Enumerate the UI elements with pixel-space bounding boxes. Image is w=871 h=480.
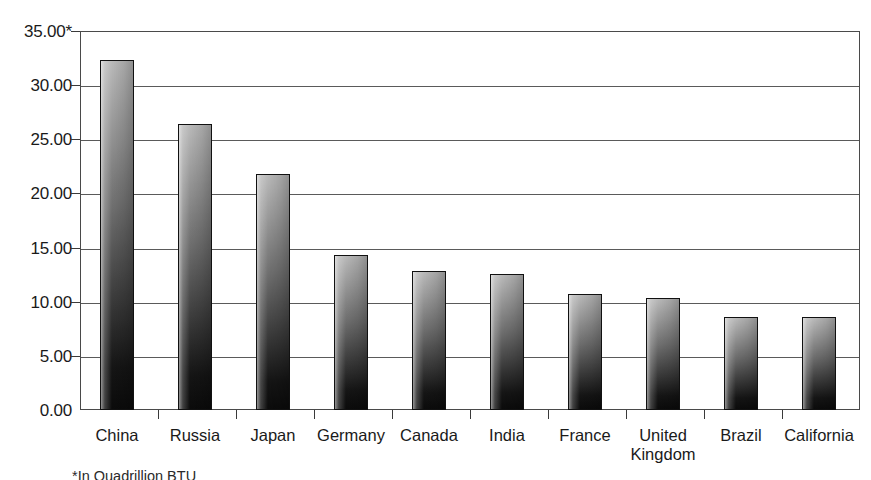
bar-fill bbox=[335, 256, 367, 409]
x-tick-label: California bbox=[784, 426, 854, 445]
x-tick-mark bbox=[314, 410, 315, 419]
y-tick-label: 25.00 bbox=[30, 131, 72, 148]
x-tick-mark bbox=[782, 410, 783, 419]
y-tick-label: 0.00 bbox=[40, 402, 72, 419]
gridline bbox=[81, 86, 859, 87]
x-tick-label: Germany bbox=[317, 426, 385, 445]
y-tick-mark bbox=[71, 356, 80, 357]
y-tick-mark bbox=[71, 31, 80, 32]
x-tick-mark bbox=[158, 410, 159, 419]
chart-footnote: *In Quadrillion BTU bbox=[72, 468, 196, 480]
x-tick-mark bbox=[548, 410, 549, 419]
y-tick-label: 30.00 bbox=[30, 77, 72, 94]
x-tick-label: Brazil bbox=[720, 426, 761, 445]
y-tick-label: 20.00 bbox=[30, 185, 72, 202]
y-tick-mark bbox=[71, 139, 80, 140]
bar-fill bbox=[413, 272, 445, 409]
bar-fill bbox=[179, 125, 211, 409]
bar[interactable] bbox=[724, 317, 758, 410]
bar[interactable] bbox=[334, 255, 368, 410]
y-tick-label: 5.00 bbox=[40, 347, 72, 364]
bar-fill bbox=[647, 299, 679, 409]
y-axis-labels: 0.005.0010.0015.0020.0025.0030.0035.00* bbox=[0, 0, 80, 480]
y-tick-mark bbox=[71, 302, 80, 303]
x-tick-label: China bbox=[95, 426, 138, 445]
x-tick-mark bbox=[470, 410, 471, 419]
y-tick-mark bbox=[71, 193, 80, 194]
y-tick-mark bbox=[71, 85, 80, 86]
bar-fill bbox=[257, 175, 289, 409]
bar[interactable] bbox=[490, 274, 524, 410]
x-tick-label: Japan bbox=[251, 426, 296, 445]
y-tick-label: 10.00 bbox=[30, 293, 72, 310]
bar[interactable] bbox=[646, 298, 680, 410]
bar[interactable] bbox=[178, 124, 212, 410]
bar[interactable] bbox=[568, 294, 602, 410]
x-tick-label: Russia bbox=[170, 426, 220, 445]
y-tick-label: 15.00 bbox=[30, 239, 72, 256]
bar-fill bbox=[803, 318, 835, 409]
bar-fill bbox=[491, 275, 523, 409]
y-tick-mark bbox=[71, 248, 80, 249]
x-tick-label: United Kingdom bbox=[630, 426, 695, 464]
bar-fill bbox=[569, 295, 601, 409]
bar-fill bbox=[101, 61, 133, 409]
x-tick-mark bbox=[704, 410, 705, 419]
x-tick-mark bbox=[236, 410, 237, 419]
x-tick-mark bbox=[392, 410, 393, 419]
x-tick-label: India bbox=[489, 426, 525, 445]
bar-chart-figure: 0.005.0010.0015.0020.0025.0030.0035.00* … bbox=[0, 0, 871, 480]
bar[interactable] bbox=[256, 174, 290, 410]
x-tick-mark bbox=[626, 410, 627, 419]
bar[interactable] bbox=[412, 271, 446, 410]
bar[interactable] bbox=[100, 60, 134, 410]
y-tick-label: 35.00* bbox=[24, 23, 72, 40]
x-tick-label: France bbox=[559, 426, 610, 445]
x-tick-label: Canada bbox=[400, 426, 458, 445]
bar-fill bbox=[725, 318, 757, 409]
bar[interactable] bbox=[802, 317, 836, 410]
